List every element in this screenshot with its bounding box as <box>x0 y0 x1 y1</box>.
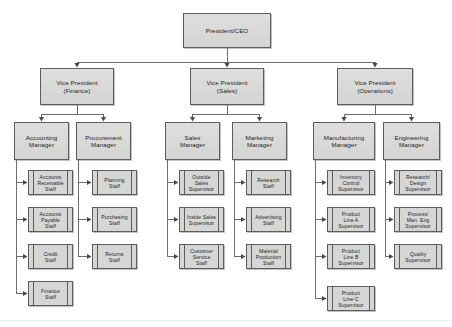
org-node-label: Outside Sales Supervisor <box>180 174 223 192</box>
org-node-label: Product Line A Supervisor <box>328 211 374 229</box>
org-node-product-line-c-supervisor[interactable]: Product Line C Supervisor <box>327 286 375 311</box>
org-node-label: Manufacturing Manager <box>314 134 374 149</box>
org-node-vp-sales[interactable]: Vice President (Sales) <box>190 68 264 105</box>
org-node-label: Research/ Design Supervisor <box>395 174 441 192</box>
org-node-marketing-manager[interactable]: Marketing Manager <box>232 122 287 160</box>
org-node-accounting-manager[interactable]: Accounting Manager <box>14 122 69 160</box>
org-node-label: Product Line C Supervisor <box>328 290 374 308</box>
org-node-inventory-control-supervisor[interactable]: Inventory Control Supervisor <box>327 170 375 195</box>
org-node-label: Inventory Control Supervisor <box>328 174 374 192</box>
org-node-engineering-manager[interactable]: Engineering Manager <box>383 122 440 160</box>
org-node-research-staff[interactable]: Research Staff <box>246 170 291 195</box>
org-node-inside-sales-supervisor[interactable]: Inside Sales Supervisor <box>179 207 224 232</box>
org-node-accounts-receivable-staff[interactable]: Accounts Receivable Staff <box>28 170 73 195</box>
org-node-advertising-staff[interactable]: Advertising Staff <box>246 207 291 232</box>
org-node-procurement-manager[interactable]: Procurement Manager <box>76 122 131 160</box>
org-node-sales-manager[interactable]: Sales Manager <box>165 122 220 160</box>
org-node-vp-operations[interactable]: Vice President (Operations) <box>337 68 413 105</box>
connector-lines <box>0 0 452 327</box>
footer-rule <box>0 320 452 321</box>
org-node-finance-staff[interactable]: Finance Staff <box>28 281 73 306</box>
org-node-president-ceo[interactable]: President/CEO <box>183 13 271 48</box>
org-node-product-line-b-supervisor[interactable]: Product Line B Supervisor <box>327 244 375 269</box>
org-node-label: Advertising Staff <box>247 214 290 226</box>
org-node-label: Accounts Payable Staff <box>29 211 72 229</box>
org-node-planning-staff[interactable]: Planning Staff <box>92 170 137 195</box>
org-node-label: Credit Staff <box>29 251 72 263</box>
org-node-research-design-supervisor[interactable]: Research/ Design Supervisor <box>394 170 442 195</box>
org-node-process-man-eng-supervisor[interactable]: Process/ Man. Eng Supervisor <box>394 207 442 232</box>
org-node-label: Vice President (Operations) <box>338 79 412 94</box>
org-node-returns-staff[interactable]: Returns Staff <box>92 244 137 269</box>
org-node-label: Product Line B Supervisor <box>328 248 374 266</box>
org-node-label: Planning Staff <box>93 177 136 189</box>
org-node-label: Process/ Man. Eng Supervisor <box>395 211 441 229</box>
org-node-label: President/CEO <box>184 27 270 34</box>
org-node-label: Inside Sales Supervisor <box>180 214 223 226</box>
org-node-credit-staff[interactable]: Credit Staff <box>28 244 73 269</box>
org-node-label: Sales Manager <box>166 134 219 149</box>
org-node-vp-finance[interactable]: Vice President (Finance) <box>40 68 114 105</box>
org-node-accounts-payable-staff[interactable]: Accounts Payable Staff <box>28 207 73 232</box>
org-chart-canvas: President/CEOVice President (Finance)Vic… <box>0 0 452 327</box>
org-node-label: Returns Staff <box>93 251 136 263</box>
org-node-label: Material Production Staff <box>247 248 290 266</box>
org-node-label: Purchasing Staff <box>93 214 136 226</box>
org-node-label: Accounting Manager <box>15 134 68 149</box>
org-node-label: Quality Supervisor <box>395 251 441 263</box>
org-node-label: Vice President (Sales) <box>191 79 263 94</box>
org-node-label: Marketing Manager <box>233 134 286 149</box>
org-node-product-line-a-supervisor[interactable]: Product Line A Supervisor <box>327 207 375 232</box>
org-node-label: Customer Service Staff <box>180 248 223 266</box>
org-node-customer-service-staff[interactable]: Customer Service Staff <box>179 244 224 269</box>
org-node-material-production-staff[interactable]: Material Production Staff <box>246 244 291 269</box>
org-node-quality-supervisor[interactable]: Quality Supervisor <box>394 244 442 269</box>
org-node-label: Vice President (Finance) <box>41 79 113 94</box>
org-node-label: Engineering Manager <box>384 134 439 149</box>
org-node-purchasing-staff[interactable]: Purchasing Staff <box>92 207 137 232</box>
org-node-label: Procurement Manager <box>77 134 130 149</box>
org-node-label: Research Staff <box>247 177 290 189</box>
org-node-label: Accounts Receivable Staff <box>29 174 72 192</box>
org-node-outside-sales-supervisor[interactable]: Outside Sales Supervisor <box>179 170 224 195</box>
org-node-label: Finance Staff <box>29 288 72 300</box>
org-node-manufacturing-manager[interactable]: Manufacturing Manager <box>313 122 375 160</box>
